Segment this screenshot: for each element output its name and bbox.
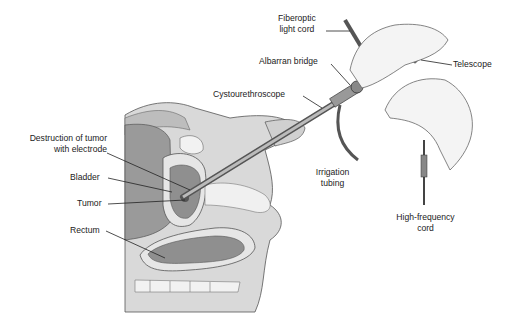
label-line: tubing xyxy=(305,178,360,189)
label-line: with electrode xyxy=(10,144,107,155)
label-irrigation-tubing: Irrigation tubing xyxy=(305,167,360,189)
label-line: cord xyxy=(388,223,463,234)
label-rectum: Rectum xyxy=(70,225,100,236)
label-line: Irrigation xyxy=(305,167,360,178)
label-high-frequency-cord: High-frequency cord xyxy=(388,212,463,234)
label-line: Destruction of tumor xyxy=(10,133,107,144)
label-cystourethroscope: Cystourethroscope xyxy=(213,89,285,100)
label-bladder: Bladder xyxy=(70,172,100,183)
label-telescope: Telescope xyxy=(453,59,492,70)
cystoscopy-diagram: Fiberoptic light cord Telescope Albarran… xyxy=(0,0,506,333)
anatomy-illustration xyxy=(0,0,506,333)
label-line: Fiberoptic xyxy=(278,13,316,24)
label-line: High-frequency xyxy=(388,212,463,223)
label-fiberoptic-light-cord: Fiberoptic light cord xyxy=(278,13,316,35)
right-hand xyxy=(385,79,472,170)
label-albarran-bridge: Albarran bridge xyxy=(259,56,318,67)
irrigation-tubing xyxy=(338,105,358,160)
label-tumor: Tumor xyxy=(77,198,102,209)
label-line: light cord xyxy=(278,24,316,35)
label-destruction-of-tumor: Destruction of tumor with electrode xyxy=(10,133,107,155)
